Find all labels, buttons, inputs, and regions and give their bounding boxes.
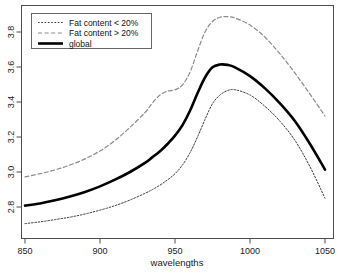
- line-chart: 85090095010001050 2.83.03.23.43.63.8 wav…: [0, 0, 348, 273]
- legend-label-2: global: [69, 39, 92, 49]
- y-tick-label: 3.4: [6, 96, 16, 109]
- series-line-2: [25, 64, 325, 205]
- y-tick-label: 3.2: [6, 131, 16, 144]
- x-tick-label: 900: [92, 246, 107, 256]
- y-axis-ticks: [17, 32, 22, 207]
- x-tick-label: 850: [17, 246, 32, 256]
- x-axis-ticks: [25, 239, 325, 244]
- legend: Fat content < 20%Fat content > 20%global: [32, 14, 152, 49]
- x-axis-title: wavelengths: [150, 257, 204, 268]
- y-tick-label: 2.8: [6, 201, 16, 214]
- series-line-0: [25, 89, 325, 223]
- x-axis-tick-labels: 85090095010001050: [17, 246, 335, 256]
- legend-label-0: Fat content < 20%: [69, 18, 139, 28]
- y-tick-label: 3.6: [6, 61, 16, 74]
- legend-label-1: Fat content > 20%: [69, 28, 139, 38]
- chart-container: 85090095010001050 2.83.03.23.43.63.8 wav…: [0, 0, 348, 273]
- x-tick-label: 1000: [240, 246, 260, 256]
- y-tick-label: 3.8: [6, 26, 16, 39]
- x-tick-label: 950: [167, 246, 182, 256]
- y-axis-tick-labels: 2.83.03.23.43.63.8: [6, 26, 16, 214]
- x-tick-label: 1050: [315, 246, 335, 256]
- y-tick-label: 3.0: [6, 166, 16, 179]
